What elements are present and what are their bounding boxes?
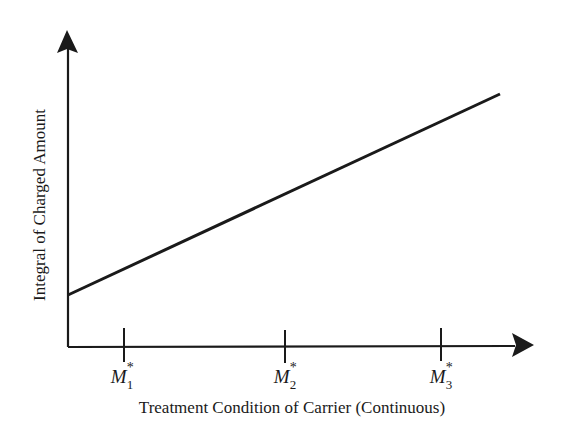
- x-tick-label-m3: M*3: [430, 366, 452, 388]
- tick-superscript: *: [127, 360, 134, 376]
- data-line: [68, 94, 500, 295]
- x-axis-title: Treatment Condition of Carrier (Continuo…: [139, 398, 445, 418]
- tick-subscript: 2: [290, 377, 297, 392]
- tick-base: M: [430, 366, 446, 387]
- x-tick-label-m1: M*1: [111, 366, 133, 388]
- tick-subscript: 3: [446, 377, 453, 392]
- tick-subscript: 1: [127, 377, 134, 392]
- tick-superscript: *: [290, 360, 297, 376]
- y-axis-title: Integral of Charged Amount: [30, 109, 50, 301]
- tick-base: M: [274, 366, 290, 387]
- tick-superscript: *: [446, 360, 453, 376]
- x-axis: [68, 346, 515, 347]
- x-tick-label-m2: M*2: [274, 366, 296, 388]
- tick-base: M: [111, 366, 127, 387]
- x-axis-arrow-icon: [512, 333, 534, 357]
